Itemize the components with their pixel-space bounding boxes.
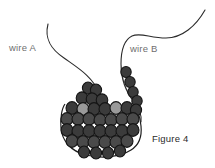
bead [121, 66, 131, 77]
figure-canvas: wire A wire B Figure 4 [0, 0, 215, 168]
wire-b-label: wire B [130, 44, 158, 54]
wire-a-label: wire A [9, 43, 36, 53]
bead-strand-wire-b [121, 66, 142, 106]
bead [114, 145, 125, 157]
bead [88, 136, 100, 149]
bead [78, 146, 89, 158]
bead [72, 113, 84, 126]
bead [125, 76, 135, 87]
bead [116, 113, 128, 126]
bead [99, 136, 111, 149]
figure-caption: Figure 4 [152, 134, 188, 144]
bead [83, 113, 95, 126]
bead [102, 147, 113, 159]
bead [66, 135, 78, 148]
bead [90, 147, 101, 159]
